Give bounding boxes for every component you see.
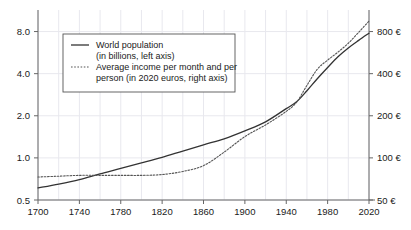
legend-label-primary: Average income per month and per xyxy=(96,62,237,72)
left-axis-tick-label: 0.5 xyxy=(17,195,30,206)
right-axis-tick-label: 50 € xyxy=(377,195,396,206)
left-axis-tick-label: 4.0 xyxy=(17,68,30,79)
right-axis-tick-label: 400 € xyxy=(377,68,401,79)
x-axis-tick-label: 1940 xyxy=(276,206,297,217)
x-axis-tick-label: 1740 xyxy=(69,206,90,217)
chart-legend: World population(in billions, left axis)… xyxy=(63,34,237,92)
dual-axis-log-line-chart: 0.51.02.04.08.0 50 €100 €200 €400 €800 €… xyxy=(0,0,411,230)
x-axis-tick-label: 1900 xyxy=(234,206,255,217)
x-axis-tick-label: 1700 xyxy=(27,206,48,217)
chart-figure: 0.51.02.04.08.0 50 €100 €200 €400 €800 €… xyxy=(0,0,411,230)
left-axis-tick-label: 8.0 xyxy=(17,26,30,37)
legend-label-secondary: person (in 2020 euros, right axis) xyxy=(96,73,228,83)
left-axis-tick-label: 2.0 xyxy=(17,110,30,121)
legend-label-secondary: (in billions, left axis) xyxy=(96,51,175,61)
right-axis-tick-label: 200 € xyxy=(377,110,401,121)
x-axis-tick-label: 2020 xyxy=(358,206,379,217)
x-axis-tick-label: 1860 xyxy=(193,206,214,217)
x-axis-tick-label: 1780 xyxy=(110,206,131,217)
legend-label-primary: World population xyxy=(96,40,163,50)
x-axis-tick-label: 1980 xyxy=(317,206,338,217)
right-axis-tick-label: 100 € xyxy=(377,152,401,163)
right-axis-tick-label: 800 € xyxy=(377,26,401,37)
left-axis-tick-label: 1.0 xyxy=(17,152,30,163)
x-axis-tick-label: 1820 xyxy=(152,206,173,217)
